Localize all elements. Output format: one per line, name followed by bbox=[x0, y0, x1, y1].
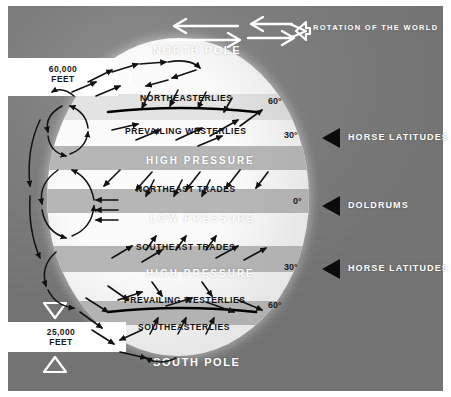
horse-latitudes-north-arrow-icon bbox=[322, 128, 340, 148]
north-pole-label: NORTH POLE bbox=[153, 44, 241, 56]
label-high-pressure-south: HIGH PRESSURE bbox=[146, 268, 255, 279]
latitude-tick-30n: 30° bbox=[284, 130, 298, 140]
label-southeasterlies: SOUTHEASTERLIES bbox=[138, 322, 230, 332]
latitude-tick-60n: 60° bbox=[268, 96, 282, 106]
latitude-tick-0: 0° bbox=[293, 196, 302, 206]
altitude-label-upper: 60,000 FEET bbox=[32, 64, 94, 84]
south-pole-label: SOUTH POLE bbox=[153, 356, 241, 368]
horse-latitudes-south-arrow-icon bbox=[322, 259, 340, 279]
callout-doldrums: DOLDRUMS bbox=[348, 200, 409, 210]
label-southeast-trades: SOUTHEAST TRADES bbox=[136, 242, 235, 252]
label-northeast-trades: NORTHEAST TRADES bbox=[136, 184, 236, 194]
label-low-pressure: LOW PRESSURE bbox=[150, 213, 255, 224]
circulation-diagram: 60,000 FEET 25,000 FEET HORSE LATITUDES … bbox=[0, 0, 451, 397]
callout-horse-latitudes-south: HORSE LATITUDES bbox=[348, 263, 449, 273]
latitude-tick-60s: 60° bbox=[268, 300, 282, 310]
label-prevailing-westerlies-south: PREVAILING WESTERLIES bbox=[124, 295, 246, 305]
doldrums-arrow-icon bbox=[322, 196, 340, 216]
callout-horse-latitudes-north: HORSE LATITUDES bbox=[348, 132, 449, 142]
latitude-tick-30s: 30° bbox=[284, 262, 298, 272]
rotation-of-world-label: ROTATION OF THE WORLD bbox=[313, 23, 438, 32]
label-high-pressure-north: HIGH PRESSURE bbox=[146, 155, 255, 166]
label-northeasterlies: NORTHEASTERLIES bbox=[140, 93, 233, 103]
altitude-label-lower: 25,000 FEET bbox=[30, 327, 92, 347]
label-prevailing-westerlies-north: PREVAILING WESTERLIES bbox=[125, 126, 247, 136]
